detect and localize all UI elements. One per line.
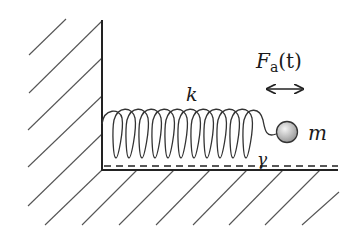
label-force-symbol: F — [255, 49, 271, 73]
wall-and-floor — [102, 20, 338, 170]
spring — [102, 109, 276, 158]
mass-spring-diagram: k Fa(t) m γ — [0, 0, 360, 239]
label-damping: γ — [257, 149, 268, 169]
label-force: Fa(t) — [255, 49, 302, 75]
label-force-arg: (t) — [278, 49, 302, 73]
floor-hatching — [82, 170, 339, 225]
mass-sphere — [277, 122, 298, 143]
label-mass: m — [308, 121, 327, 145]
label-spring-constant: k — [186, 83, 198, 105]
label-force-subscript: a — [270, 59, 278, 75]
wall-hatching — [28, 19, 102, 225]
